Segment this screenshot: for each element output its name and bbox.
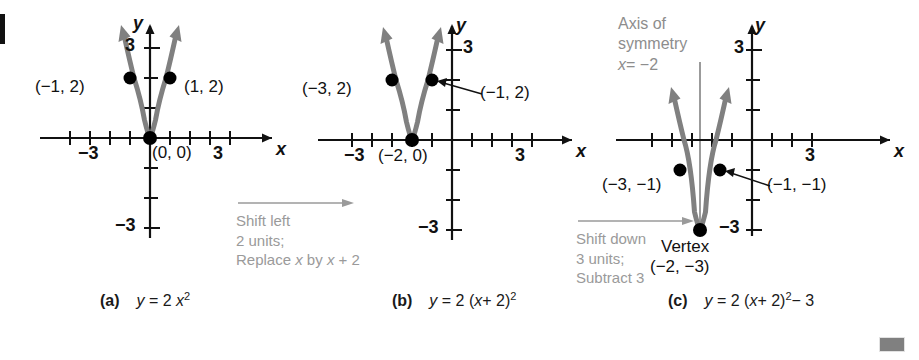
caption-a-var: x <box>176 292 184 309</box>
vertex-coords-label: (−2, −3) <box>650 258 710 276</box>
y-axis-name-a: y <box>133 14 143 33</box>
caption-b-lhs: y <box>429 292 437 309</box>
y-tick-label-b-neg3: −3 <box>418 218 439 237</box>
y-axis-name-b: y <box>456 16 466 35</box>
axis-of-symmetry-line2: symmetry <box>618 34 687 54</box>
caption-c-tail2: − 3 <box>792 292 815 309</box>
x-axis-arrowhead-c <box>880 136 890 145</box>
x-axis-arrowhead-a <box>262 134 272 143</box>
panel-b: y x −3 3 3 −3 (−3, 2) (−1, 2) (−2, 0) (b… <box>300 0 600 360</box>
point-label-a-3: (0, 0) <box>152 144 192 162</box>
point-label-c-1: (−3, −1) <box>602 176 662 194</box>
x-tick-label-a-3: 3 <box>213 144 223 163</box>
y-tick-label-b-3: 3 <box>463 38 473 57</box>
x-axis-arrowhead-b <box>562 136 572 145</box>
leader-line-b <box>440 82 482 94</box>
leader-arrowhead-c <box>725 168 735 177</box>
x-tick-label-b-3: 3 <box>515 146 525 165</box>
caption-a-exponent: 2 <box>184 290 190 302</box>
point-label-c-2: (−1, −1) <box>767 176 827 194</box>
point-a-1 <box>124 72 137 85</box>
y-tick-label-a-neg3: −3 <box>115 216 136 235</box>
caption-a-rhs: = 2 <box>149 292 172 309</box>
point-label-a-1: (−1, 2) <box>35 78 85 96</box>
page-corner-marker <box>879 337 905 352</box>
y-axis-arrowhead-a <box>146 24 155 34</box>
point-label-b-2: (−1, 2) <box>480 84 530 102</box>
y-tick-label-c-3: 3 <box>734 38 744 57</box>
caption-c-tail: + 2) <box>757 292 785 309</box>
caption-c-rhs: = 2 ( <box>717 292 749 309</box>
y-tick-label-c-neg3: −3 <box>719 218 740 237</box>
caption-b-tail: + 2) <box>482 292 510 309</box>
y-axis-name-c: y <box>755 16 765 35</box>
point-c-2 <box>714 164 727 177</box>
point-b-2 <box>426 74 439 87</box>
parabola-b <box>386 37 438 140</box>
y-tick-label-a-3: 3 <box>125 36 135 55</box>
caption-b-rhs: = 2 ( <box>442 292 474 309</box>
leader-line-c <box>728 172 770 186</box>
x-axis-name-c: x <box>894 142 904 161</box>
caption-b-tag: (b) <box>392 292 412 309</box>
x-axis-name-b: x <box>576 142 586 161</box>
point-b-1 <box>386 74 399 87</box>
axis-of-symmetry-var: x <box>618 56 626 73</box>
caption-c-lhs: y <box>704 292 712 309</box>
point-a-2 <box>164 72 177 85</box>
caption-a: (a) y = 2 x2 <box>100 290 190 310</box>
transition-1-line3-pre: Replace <box>236 251 295 268</box>
axis-of-symmetry-rhs: = −2 <box>626 56 658 73</box>
caption-c: (c) y = 2 (x+ 2)2− 3 <box>668 290 814 310</box>
panel-c: Axis of symmetry x= −2 y x 3 3 −3 (−3, −… <box>600 0 919 360</box>
axis-of-symmetry-line1: Axis of <box>618 14 687 34</box>
x-tick-label-b-neg3: −3 <box>344 146 365 165</box>
caption-a-tag: (a) <box>100 292 120 309</box>
x-tick-label-c-3: 3 <box>805 146 815 165</box>
vertex-label: Vertex <box>661 238 709 256</box>
caption-c-tag: (c) <box>668 292 688 309</box>
point-label-a-2: (1, 2) <box>184 78 224 96</box>
axis-of-symmetry-label: Axis of symmetry x= −2 <box>618 14 687 75</box>
leader-arrowhead-b <box>437 78 447 87</box>
point-label-b-1: (−3, 2) <box>302 80 352 98</box>
point-b-3 <box>405 133 419 147</box>
caption-b: (b) y = 2 (x+ 2)2 <box>392 290 516 310</box>
figure-canvas: y x −3 3 3 −3 (−1, 2) (1, 2) (0, 0) (a) … <box>0 0 919 360</box>
point-c-3 <box>693 223 707 237</box>
point-c-1 <box>674 164 687 177</box>
caption-a-lhs: y <box>136 292 144 309</box>
point-label-b-3: (−2, 0) <box>378 147 428 165</box>
caption-b-exponent: 2 <box>510 290 516 302</box>
x-axis-name-a: x <box>276 140 286 159</box>
panel-a: y x −3 3 3 −3 (−1, 2) (1, 2) (0, 0) (a) … <box>0 0 300 360</box>
axis-of-symmetry-equation: x= −2 <box>618 55 687 75</box>
x-tick-label-a-neg3: −3 <box>78 144 99 163</box>
